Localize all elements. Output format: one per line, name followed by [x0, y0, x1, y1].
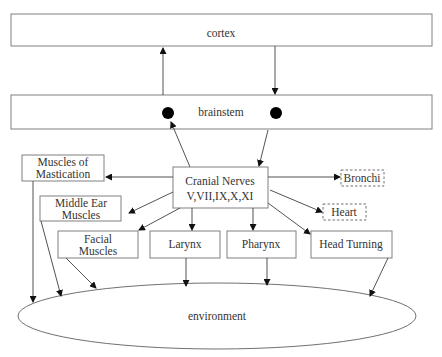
- bronchi-label: Bronchi: [343, 172, 380, 184]
- mastication-label-2: Mastication: [36, 168, 91, 180]
- arrow-head-turning-to-env: [370, 258, 388, 296]
- arrow-facial-to-env: [66, 258, 96, 288]
- mastication-node: Muscles of Mastication: [22, 155, 104, 181]
- arrow-brainstem-to-cranial: [259, 130, 268, 166]
- middle-ear-node: Middle Ear Muscles: [40, 196, 121, 221]
- environment-label: environment: [188, 310, 247, 322]
- heart-node: Heart: [323, 204, 366, 220]
- neural-pathway-diagram: cortex brainstem Cranial Nerves V,VII,IX…: [0, 0, 442, 357]
- pharynx-label: Pharynx: [242, 238, 281, 251]
- brainstem-label: brainstem: [198, 106, 243, 118]
- larynx-label: Larynx: [168, 238, 201, 251]
- middle-ear-label-2: Muscles: [62, 209, 101, 221]
- brainstem-node: brainstem: [11, 95, 432, 129]
- head-turning-label: Head Turning: [319, 238, 383, 251]
- synapse-dot-right: [270, 107, 282, 119]
- environment-node: environment: [18, 283, 416, 349]
- cortex-label: cortex: [207, 27, 236, 39]
- cortex-node: cortex: [11, 14, 432, 46]
- arrow-to-facial: [139, 208, 180, 230]
- cranial-nerves-node: Cranial Nerves V,VII,IX,X,XI: [173, 167, 268, 208]
- facial-muscles-node: Facial Muscles: [58, 231, 138, 258]
- middle-ear-label-1: Middle Ear: [55, 197, 107, 209]
- arrow-to-head-turning: [268, 203, 310, 234]
- facial-label-1: Facial: [84, 233, 112, 245]
- arrow-to-middle-ear: [129, 192, 173, 213]
- head-turning-node: Head Turning: [311, 231, 392, 258]
- pharynx-node: Pharynx: [227, 231, 296, 258]
- bronchi-node: Bronchi: [341, 170, 384, 186]
- arrow-to-heart: [270, 190, 322, 212]
- facial-label-2: Muscles: [79, 245, 118, 257]
- heart-label: Heart: [331, 206, 357, 218]
- larynx-node: Larynx: [150, 231, 220, 258]
- synapse-dot-left: [162, 107, 174, 119]
- cranial-nerves-label-2: V,VII,IX,X,XI: [187, 190, 254, 203]
- cranial-nerves-label-1: Cranial Nerves: [185, 175, 255, 187]
- mastication-label-1: Muscles of: [38, 156, 89, 168]
